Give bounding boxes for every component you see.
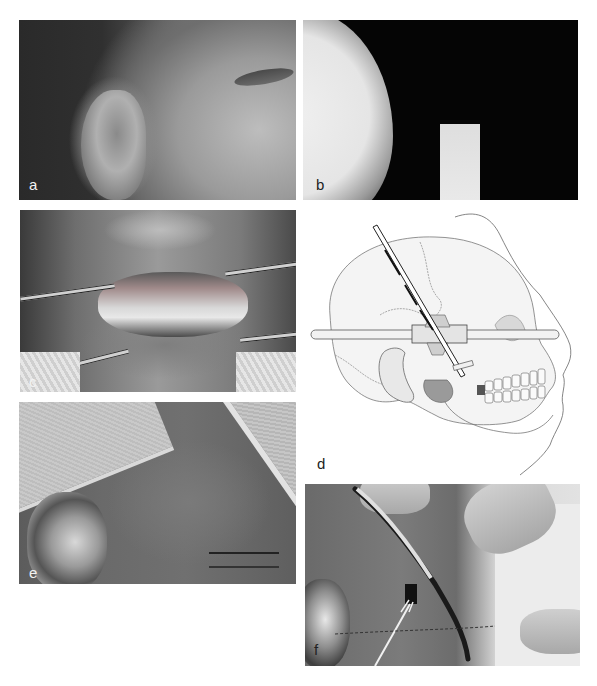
eye-image-region xyxy=(233,65,295,89)
panel-label-b: b xyxy=(316,177,324,192)
figure-panel-c: c xyxy=(20,210,296,392)
surgical-drape-right xyxy=(209,402,296,562)
retractor-upper-right xyxy=(225,260,296,276)
soft-tissue-profile xyxy=(303,20,393,200)
panel-label-a: a xyxy=(29,177,37,192)
retractor-lower-right xyxy=(240,330,296,342)
ear-image-region xyxy=(81,90,146,200)
panel-label-f: f xyxy=(314,642,318,657)
figure-panel-f: f xyxy=(305,484,580,666)
instruments xyxy=(305,484,580,666)
incision-marking xyxy=(209,552,279,568)
surgical-drape-left xyxy=(19,402,174,514)
radiopaque-marker xyxy=(440,124,480,200)
open-mouth-region xyxy=(98,272,248,337)
panel-label-e: e xyxy=(29,565,37,580)
panel-label-d: d xyxy=(317,456,325,471)
skull-illustration xyxy=(305,205,597,480)
drape-right xyxy=(236,352,296,392)
figure-panel-a: a xyxy=(19,20,296,200)
ear-image-region xyxy=(27,492,107,584)
figure-panel-b: b xyxy=(303,20,578,200)
figure-panel-d: d xyxy=(305,205,597,480)
figure-panel-e: e xyxy=(19,402,296,584)
panel-label-c: c xyxy=(29,374,37,389)
